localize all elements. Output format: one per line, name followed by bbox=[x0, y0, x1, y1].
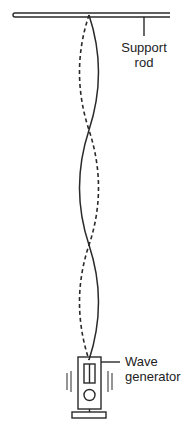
support-rod bbox=[13, 13, 170, 17]
wave-generator-knob bbox=[84, 390, 95, 401]
wave-generator-label-line1: Wave bbox=[125, 354, 158, 369]
support-rod-label-line1: Support bbox=[121, 40, 167, 55]
wave-generator-label-line2: generator bbox=[125, 369, 181, 384]
wave-generator-base bbox=[72, 412, 106, 418]
vibration-lines-left bbox=[67, 371, 71, 392]
string-dashed-envelope bbox=[80, 15, 99, 360]
support-rod-label-line2: rod bbox=[135, 55, 154, 70]
string-solid-envelope bbox=[80, 15, 99, 360]
vibration-lines-right bbox=[108, 371, 112, 392]
standing-wave-diagram: Support rod Wave generator bbox=[0, 0, 196, 434]
